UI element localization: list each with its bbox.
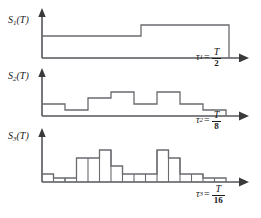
signal-2-svg: [36, 66, 256, 124]
signal-1-svg: [36, 6, 256, 62]
signal-3-svg: [36, 128, 256, 190]
tau-label-1: τ1= T 2: [196, 47, 221, 68]
signal-quantization-figure: S1(T) τ1= T 2 S2(T): [0, 0, 261, 218]
plot-area-s2: [36, 66, 256, 124]
plot-area-s1: [36, 6, 256, 62]
y-axis-label-s2: S2(T): [8, 70, 29, 83]
panel-signal-3: S3(T): [0, 128, 261, 218]
panel-signal-1: S1(T) τ1= T 2: [0, 0, 261, 62]
y-axis-label-s3: S3(T): [8, 130, 29, 143]
fraction-t-over-16: T 16: [212, 184, 225, 205]
y-axis-label-s1: S1(T): [8, 14, 29, 27]
y-axis-arrow-s1: [38, 8, 45, 17]
fraction-t-over-2: T 2: [212, 47, 222, 68]
x-axis-arrow-s3: [239, 178, 249, 187]
plot-area-s3: [36, 128, 256, 190]
y-axis-arrow-s2: [38, 68, 45, 77]
x-axis-arrow-s2: [239, 112, 249, 121]
tau-label-3: τ3= T 16: [196, 184, 225, 205]
x-axis-arrow-s1: [239, 54, 249, 62]
panel-signal-2: S2(T) τ2= T 8: [0, 66, 261, 132]
y-axis-arrow-s3: [38, 128, 45, 137]
